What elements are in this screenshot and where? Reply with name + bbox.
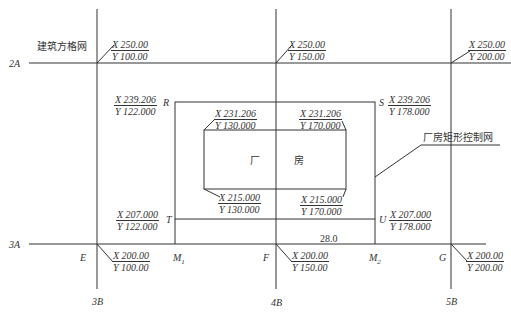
point-R: R xyxy=(163,97,169,108)
coord-R: X 239.206Y 122.000 xyxy=(114,94,157,117)
control-leader xyxy=(375,145,421,177)
coord-G: X 200.00Y 200.00 xyxy=(466,250,504,273)
coord-U: X 207.000Y 178.000 xyxy=(389,209,432,232)
coord-grid-2A-4B: X 250.00Y 150.00 xyxy=(288,39,326,62)
col-label-4B: 4B xyxy=(271,297,282,308)
row-label-3A: 3A xyxy=(9,239,20,250)
point-G: G xyxy=(439,252,446,263)
point-S: S xyxy=(379,97,384,108)
coord-building-bottom-right: X 215.000Y 170.000 xyxy=(300,194,343,217)
point-M2: M2 xyxy=(369,252,381,268)
coord-building-bottom-left: X 215.000Y 130.000 xyxy=(218,192,261,215)
building-label-left: 厂 xyxy=(250,155,260,166)
coord-S: X 239.206Y 178.000 xyxy=(388,94,431,117)
coord-T: X 207.000Y 122.000 xyxy=(116,209,159,232)
grid-name-label: 建筑方格网 xyxy=(37,41,87,52)
point-T: T xyxy=(166,214,172,225)
building-label-right: 房 xyxy=(294,155,304,166)
control-rectangle xyxy=(175,102,375,219)
coord-E: X 200.00Y 100.00 xyxy=(112,250,150,273)
point-U: U xyxy=(379,214,386,225)
control-name-label: 厂房矩形控制网 xyxy=(423,132,493,143)
coord-grid-2A-5B: X 250.00Y 200.00 xyxy=(468,39,506,62)
col-label-5B: 5B xyxy=(446,296,457,307)
distance-label: 28.0 xyxy=(320,233,338,244)
point-E: E xyxy=(80,252,86,263)
coord-grid-2A-3B: X 250.00Y 100.00 xyxy=(111,39,149,62)
building-outline xyxy=(204,130,346,189)
row-label-2A: 2A xyxy=(9,58,20,69)
coord-F: X 200.00Y 150.00 xyxy=(291,250,329,273)
point-F: F xyxy=(263,252,269,263)
point-M1: M1 xyxy=(173,252,185,268)
coord-building-top-left: X 231.206Y 130.000 xyxy=(214,108,257,131)
col-label-3B: 3B xyxy=(92,296,103,307)
coord-building-top-right: X 231.206Y 170.000 xyxy=(299,108,342,131)
